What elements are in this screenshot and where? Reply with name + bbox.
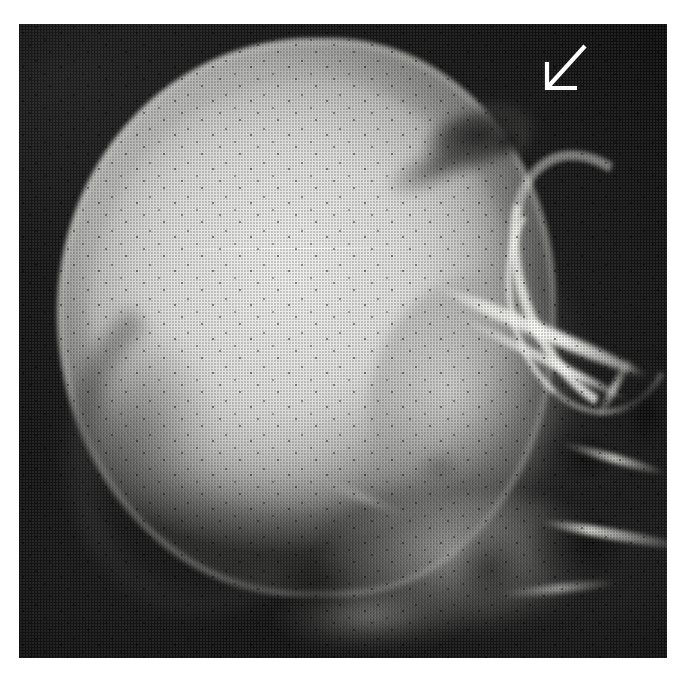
radiograph-plate	[19, 24, 667, 658]
figure-page	[0, 0, 685, 680]
film-vignette	[19, 24, 667, 658]
